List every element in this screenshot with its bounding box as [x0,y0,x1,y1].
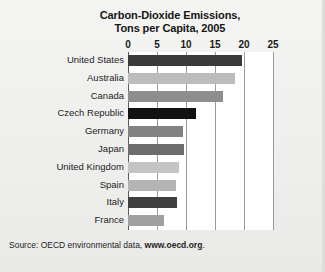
chart-figure: Carbon-Dioxide Emissions, Tons per Capit… [0,0,325,272]
x-axis-tick-labels: 0510152025 [0,39,325,52]
chart-title: Carbon-Dioxide Emissions, Tons per Capit… [60,9,280,35]
bar-row: Japan [0,141,325,159]
bar-united-states [128,55,242,66]
bar-row: Germany [0,123,325,141]
source-prefix: Source: OECD environmental data, [9,240,145,250]
bar-row: France [0,212,325,230]
category-label-czech-republic: Czech Republic [0,107,124,119]
x-tick-label-0: 0 [113,39,143,50]
bar-czech-republic [128,108,196,119]
category-label-france: France [0,214,124,226]
chart-title-line-2: Tons per Capita, 2005 [60,22,280,35]
chart-title-line-1: Carbon-Dioxide Emissions, [100,9,241,21]
bar-row: Czech Republic [0,105,325,123]
bar-germany [128,126,183,137]
bar-row: United States [0,52,325,70]
category-label-japan: Japan [0,143,124,155]
bar-row: Australia [0,70,325,88]
bar-spain [128,180,176,191]
x-tick-label-10: 10 [171,39,201,50]
x-tick-label-5: 5 [142,39,172,50]
category-label-germany: Germany [0,125,124,137]
category-label-united-states: United States [0,54,124,66]
source-suffix: . [202,240,204,250]
bar-france [128,215,164,226]
bar-united-kingdom [128,162,179,173]
bar-australia [128,73,235,84]
x-tick-label-20: 20 [229,39,259,50]
x-tick-label-15: 15 [200,39,230,50]
x-tick-label-25: 25 [258,39,288,50]
bar-row: Spain [0,177,325,195]
bar-canada [128,91,223,102]
category-label-united-kingdom: United Kingdom [0,161,124,173]
bar-row: United Kingdom [0,159,325,177]
category-label-spain: Spain [0,179,124,191]
category-label-australia: Australia [0,72,124,84]
category-label-italy: Italy [0,196,124,208]
bar-row: Canada [0,88,325,106]
source-note: Source: OECD environmental data, www.oec… [9,240,205,250]
bar-italy [128,197,177,208]
source-url-link[interactable]: www.oecd.org [145,240,203,250]
category-label-canada: Canada [0,90,124,102]
bar-japan [128,144,184,155]
bar-row: Italy [0,194,325,212]
